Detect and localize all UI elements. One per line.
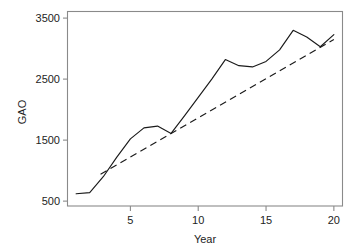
x-tick-label: 20 bbox=[328, 214, 340, 226]
chart-container: 500150025003500 5101520 GAO Year bbox=[0, 0, 362, 251]
x-axis-ticks: 5101520 bbox=[127, 206, 340, 226]
y-tick-label: 500 bbox=[42, 195, 60, 207]
trend-line-dashed bbox=[101, 39, 334, 174]
y-tick-label: 2500 bbox=[36, 73, 60, 85]
x-tick-label: 15 bbox=[260, 214, 272, 226]
x-tick-label: 10 bbox=[192, 214, 204, 226]
x-tick-label: 5 bbox=[127, 214, 133, 226]
x-axis-label: Year bbox=[194, 233, 217, 245]
gao-observed-line bbox=[76, 30, 334, 194]
data-layer bbox=[76, 30, 334, 194]
gao-vs-year-line-chart: 500150025003500 5101520 GAO Year bbox=[0, 0, 362, 251]
y-tick-label: 3500 bbox=[36, 12, 60, 24]
y-axis-ticks: 500150025003500 bbox=[36, 12, 68, 207]
plot-frame bbox=[68, 12, 343, 207]
y-axis-label: GAO bbox=[16, 99, 28, 124]
y-tick-label: 1500 bbox=[36, 134, 60, 146]
